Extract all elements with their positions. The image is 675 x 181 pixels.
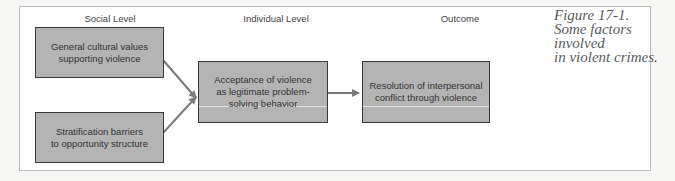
node-stratification-barriers: Stratification barriers to opportunity s… — [35, 112, 164, 163]
node-text: Stratification barriers — [51, 126, 148, 138]
node-text: conflict through violence — [369, 92, 482, 104]
node-acceptance-of-violence: Acceptance of violence as legitimate pro… — [198, 61, 328, 123]
node-text: Acceptance of violence — [214, 74, 312, 86]
arrow-cultural-to-acceptance — [163, 60, 196, 98]
node-resolution-of-conflict: Resolution of interpersonal conflict thr… — [362, 61, 490, 123]
caption-text: in violent crimes. — [554, 50, 675, 64]
node-text: General cultural values — [51, 41, 148, 53]
node-text: supporting violence — [51, 53, 148, 65]
figure-caption: Figure 17-1. Some factors involved in vi… — [554, 8, 675, 64]
node-text: Resolution of interpersonal — [369, 80, 482, 92]
node-text: to opportunity structure — [51, 138, 148, 150]
caption-text: Some factors involved — [554, 22, 675, 50]
arrow-stratification-to-acceptance — [163, 97, 196, 133]
caption-figure-number: Figure 17-1. — [554, 8, 675, 22]
node-cultural-values: General cultural values supporting viole… — [35, 27, 164, 78]
node-text: solving behavior — [214, 98, 312, 110]
node-text: as legitimate problem- — [214, 86, 312, 98]
